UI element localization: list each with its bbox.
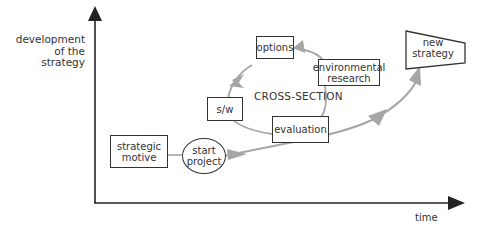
node-text: new: [408, 37, 458, 48]
x-axis: [94, 196, 465, 210]
node-text: motive: [122, 152, 157, 163]
node-start-project: start project: [182, 138, 226, 174]
y-axis-label: development of the strategy: [0, 34, 85, 69]
node-text: strategic: [117, 141, 161, 152]
x-axis-label: time: [415, 212, 438, 223]
node-new-strategy: new strategy: [408, 37, 458, 59]
arrowhead-newstrategy: [409, 66, 421, 86]
arc-sw-options: [228, 65, 252, 99]
y-label-line-1: development: [0, 34, 85, 46]
node-strategic-motive: strategic motive: [110, 135, 168, 168]
node-text: environmental: [313, 62, 386, 73]
node-options: options: [256, 36, 294, 59]
node-sw: s/w: [207, 97, 243, 121]
node-text: start: [192, 145, 215, 156]
cross-section-label: CROSS-SECTION: [254, 91, 343, 102]
node-evaluation: evaluation: [272, 116, 329, 143]
node-environmental-research: environmental research: [318, 59, 380, 86]
node-text: research: [327, 73, 370, 84]
y-label-line-3: strategy: [0, 57, 85, 69]
arrowhead-mid: [368, 109, 387, 126]
node-text: strategy: [408, 48, 458, 59]
arrowhead-start: [227, 149, 247, 160]
y-axis: [88, 6, 102, 203]
node-text: project: [187, 156, 222, 167]
